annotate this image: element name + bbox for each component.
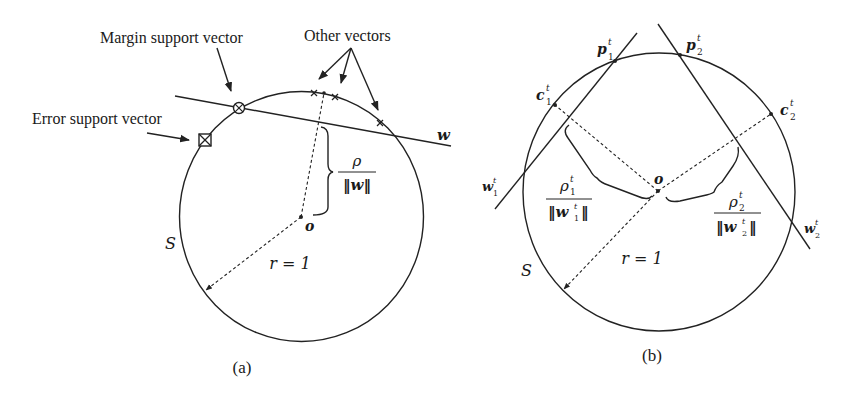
svg-text:p: p [597, 41, 607, 57]
margin-support-vector-icon [234, 103, 245, 114]
origin-label: o [305, 218, 314, 234]
svg-text:t: t [546, 83, 550, 93]
svg-text:ρ: ρ [559, 177, 569, 195]
svg-text:c: c [780, 102, 789, 118]
origin-label: o [654, 171, 663, 187]
svg-text:1: 1 [608, 52, 614, 62]
margin-brace [313, 127, 333, 215]
brace-rho1 [565, 125, 652, 199]
margin-fraction-num: ρ [352, 152, 362, 170]
error-support-vector-icon [199, 134, 211, 146]
projection-point [322, 91, 326, 95]
svg-text:t: t [815, 218, 819, 227]
label-p2: p t 2 [686, 33, 703, 57]
label-w1: w t 1 [482, 176, 498, 198]
svg-text:2: 2 [697, 47, 703, 57]
caption-a: (a) [233, 358, 252, 377]
sphere-label: S [165, 234, 176, 253]
svg-text:t: t [608, 37, 612, 47]
dashed-o-c2 [658, 114, 771, 191]
radius-label: r = 1 [621, 249, 662, 268]
fraction-rho1: ρ t 1 ‖w t 1 ‖ [546, 174, 592, 223]
svg-text:2: 2 [790, 112, 796, 122]
other-vectors-label: Other vectors [304, 27, 391, 44]
radius-arrow [564, 191, 658, 289]
svg-text:2: 2 [742, 229, 747, 238]
radius-label: r = 1 [269, 254, 310, 273]
panel-b: o r = 1 S p t 1 p t 2 c t 1 c t 2 w [482, 24, 820, 365]
caption-b: (b) [642, 346, 662, 365]
brace-rho2 [666, 147, 738, 202]
point-p2 [678, 53, 682, 57]
svg-text:t: t [570, 174, 574, 184]
fraction-rho2: ρ t 2 ‖w t 2 ‖ [714, 190, 761, 238]
label-w2: w t 2 [804, 218, 820, 240]
svg-text:2: 2 [739, 203, 745, 213]
svg-text:t: t [493, 176, 497, 185]
svg-text:‖: ‖ [749, 218, 757, 236]
svg-text:t: t [739, 190, 743, 200]
svg-text:1: 1 [570, 187, 576, 197]
svg-text:t: t [742, 217, 746, 226]
label-c2: c t 2 [780, 98, 796, 122]
panel-a: w Margin support vector Error support ve… [32, 27, 451, 377]
svg-text:1: 1 [546, 97, 552, 107]
error-sv-arrow [147, 133, 189, 140]
svg-text:1: 1 [574, 214, 579, 223]
svg-text:p: p [686, 37, 696, 53]
svg-text:‖w: ‖w [548, 203, 570, 221]
svg-text:‖: ‖ [581, 203, 589, 221]
margin-sv-label: Margin support vector [100, 29, 243, 47]
hyperplane-line [175, 96, 451, 146]
svg-text:ρ: ρ [728, 193, 738, 211]
error-sv-label: Error support vector [32, 110, 162, 128]
svg-text:t: t [574, 202, 578, 211]
hyperplane-label: w [437, 126, 451, 144]
svg-text:‖w: ‖w [716, 218, 738, 236]
margin-dashed-line [301, 93, 324, 217]
svg-text:t: t [697, 33, 701, 43]
hyperplane-w2-line [658, 24, 810, 249]
svg-text:t: t [790, 98, 794, 108]
figure: w Margin support vector Error support ve… [0, 0, 849, 402]
svg-text:2: 2 [815, 231, 820, 240]
svg-text:c: c [536, 87, 545, 103]
margin-fraction-den: ‖w‖ [343, 176, 371, 194]
label-p1: p t 1 [597, 37, 614, 62]
label-c1: c t 1 [536, 83, 552, 107]
margin-sv-arrow [217, 48, 231, 91]
sphere-label: S [521, 261, 532, 280]
svg-text:1: 1 [493, 189, 498, 198]
